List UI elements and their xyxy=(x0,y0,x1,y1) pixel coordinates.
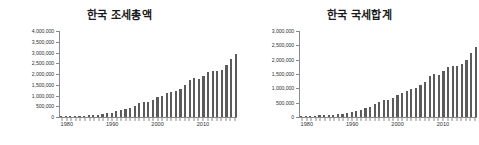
x-tick-label-left-0: 1980 xyxy=(61,121,73,127)
bar xyxy=(323,115,325,117)
bar xyxy=(461,64,463,117)
bar xyxy=(314,116,316,117)
bar xyxy=(328,115,330,117)
bar xyxy=(78,116,80,117)
x-tick-label-right-0: 1980 xyxy=(301,121,313,127)
plot-area-right: 0500,0001,000,0001,500,0002,000,0002,500… xyxy=(299,31,477,118)
y-tick-label-left-6: 3,000,000 xyxy=(32,50,54,56)
bar xyxy=(392,98,394,117)
bar xyxy=(364,108,366,117)
bar xyxy=(92,115,94,117)
bar xyxy=(465,60,467,117)
bar xyxy=(129,108,131,117)
bar xyxy=(170,92,172,117)
bar xyxy=(374,104,376,117)
bar xyxy=(300,116,302,117)
bar xyxy=(184,85,186,117)
x-tick-label-left-1: 1990 xyxy=(106,121,118,127)
y-tick-right-4 xyxy=(296,60,299,61)
bar xyxy=(202,76,204,117)
bar xyxy=(387,100,389,117)
bar xyxy=(369,107,371,117)
bar xyxy=(147,102,149,117)
chart-title-right: 한국 국세합계 xyxy=(240,6,479,22)
bar xyxy=(69,116,71,117)
bar xyxy=(115,111,117,117)
chart-title-left: 한국 조세총액 xyxy=(0,6,239,22)
chart-panel-left: 한국 조세총액 0500,0001,000,0001,500,0002,000,… xyxy=(0,0,239,145)
bar xyxy=(438,75,440,117)
bar xyxy=(60,116,62,117)
y-tick-left-2 xyxy=(56,96,59,97)
bar xyxy=(341,114,343,117)
bar xyxy=(447,67,449,117)
y-tick-left-3 xyxy=(56,85,59,86)
bar-series-left xyxy=(60,31,237,117)
bar xyxy=(309,116,311,117)
y-tick-label-left-8: 4,000,000 xyxy=(32,28,54,34)
bar xyxy=(360,110,362,117)
bar xyxy=(83,116,85,117)
bar xyxy=(406,91,408,117)
x-tick-label-right-2: 2000 xyxy=(391,121,403,127)
y-tick-left-8 xyxy=(56,31,59,32)
bar xyxy=(337,114,339,117)
y-tick-label-right-0: 0 xyxy=(291,114,294,120)
bar xyxy=(230,59,232,117)
y-tick-label-left-0: 0 xyxy=(51,114,54,120)
bar xyxy=(383,100,385,117)
bar xyxy=(452,66,454,117)
y-tick-right-2 xyxy=(296,88,299,89)
bar xyxy=(166,93,168,117)
bar xyxy=(456,66,458,117)
chart-panel-right: 한국 국세합계 0500,0001,000,0001,500,0002,000,… xyxy=(240,0,479,145)
y-tick-left-4 xyxy=(56,74,59,75)
y-tick-label-left-1: 500,000 xyxy=(36,103,54,109)
bar xyxy=(101,114,103,117)
bar xyxy=(175,91,177,117)
y-tick-label-left-5: 2,500,000 xyxy=(32,60,54,66)
bar xyxy=(65,116,67,117)
bar xyxy=(216,71,218,117)
x-axis-tick-labels-left: 1980199020002010 xyxy=(60,121,237,133)
bar xyxy=(189,80,191,117)
x-tick-label-right-1: 1990 xyxy=(346,121,358,127)
y-tick-left-5 xyxy=(56,63,59,64)
bar xyxy=(470,53,472,118)
bar xyxy=(207,72,209,117)
bar xyxy=(424,82,426,117)
bar xyxy=(120,110,122,117)
bar xyxy=(346,113,348,117)
bar xyxy=(97,115,99,117)
bar xyxy=(88,115,90,117)
bar xyxy=(475,47,477,117)
bar xyxy=(433,74,435,117)
y-tick-label-left-4: 2,000,000 xyxy=(32,71,54,77)
bar xyxy=(221,70,223,118)
bar xyxy=(138,103,140,117)
y-tick-label-left-3: 1,500,000 xyxy=(32,82,54,88)
y-tick-left-1 xyxy=(56,106,59,107)
x-tick-label-left-2: 2000 xyxy=(151,121,163,127)
y-tick-label-right-2: 1,000,000 xyxy=(272,85,294,91)
y-tick-label-right-6: 3,000,000 xyxy=(272,28,294,34)
bar xyxy=(401,93,403,117)
y-tick-left-6 xyxy=(56,53,59,54)
plot-area-left: 0500,0001,000,0001,500,0002,000,0002,500… xyxy=(59,31,237,118)
y-tick-left-7 xyxy=(56,42,59,43)
bar xyxy=(212,71,214,117)
x-tick-label-right-3: 2010 xyxy=(437,121,449,127)
y-tick-right-1 xyxy=(296,103,299,104)
x-axis-tick-labels-right: 1980199020002010 xyxy=(300,121,477,133)
y-tick-right-0 xyxy=(296,117,299,118)
y-tick-label-left-7: 3,500,000 xyxy=(32,39,54,45)
bar xyxy=(332,115,334,117)
bar xyxy=(198,79,200,117)
bar xyxy=(396,95,398,117)
bar xyxy=(355,111,357,117)
bar xyxy=(193,78,195,117)
y-tick-right-6 xyxy=(296,31,299,32)
y-tick-label-right-4: 2,000,000 xyxy=(272,57,294,63)
bar xyxy=(124,109,126,117)
bar xyxy=(143,102,145,117)
